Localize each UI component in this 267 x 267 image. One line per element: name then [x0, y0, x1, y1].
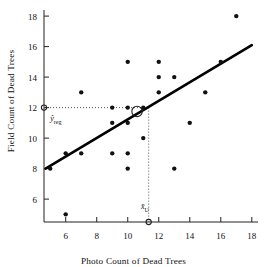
y-tick-label: 16 — [28, 42, 38, 52]
data-point — [126, 105, 130, 109]
data-point — [188, 121, 192, 125]
data-point — [126, 166, 130, 170]
y-tick-label: 8 — [33, 164, 38, 174]
data-points-group — [48, 14, 238, 217]
data-point — [110, 121, 114, 125]
x-tick-label: 12 — [154, 231, 163, 241]
x-axis-title: Photo Count of Dead Trees — [0, 256, 267, 266]
data-point — [126, 60, 130, 64]
data-point — [141, 136, 145, 140]
data-point — [126, 121, 130, 125]
y-axis-title: Field Count of Dead Trees — [6, 36, 16, 166]
data-point — [157, 60, 161, 64]
data-point — [48, 166, 52, 170]
x-bar-u-label-subscript: U — [144, 207, 149, 213]
plot-canvas: 681012141618681012141618ŷregx̄U — [0, 0, 267, 267]
x-bar-u-label: x̄U — [140, 202, 150, 213]
y-tick-label: 14 — [28, 73, 38, 83]
y-ticks-group: 681012141618 — [28, 12, 49, 205]
data-point — [203, 90, 207, 94]
x-tick-label: 18 — [247, 231, 257, 241]
data-point — [110, 105, 114, 109]
data-point — [219, 60, 223, 64]
data-point — [79, 90, 83, 94]
data-point — [234, 14, 238, 18]
y-tick-label: 6 — [33, 195, 38, 205]
data-point — [79, 151, 83, 155]
data-point — [172, 166, 176, 170]
data-point — [126, 151, 130, 155]
y-reg-label: ŷreg — [49, 114, 61, 125]
data-point — [64, 212, 68, 216]
x-tick-label: 16 — [216, 231, 226, 241]
data-point — [110, 151, 114, 155]
x-tick-label: 10 — [123, 231, 133, 241]
data-point — [157, 90, 161, 94]
x-tick-label: 6 — [63, 231, 68, 241]
data-point — [157, 75, 161, 79]
x-tick-label: 14 — [185, 231, 195, 241]
data-point — [64, 151, 68, 155]
y-tick-label: 12 — [28, 103, 37, 113]
y-tick-label: 18 — [28, 12, 38, 22]
scatter-plot-figure: 681012141618681012141618ŷregx̄U Photo Co… — [0, 0, 267, 267]
x-ticks-group: 681012141618 — [63, 217, 256, 241]
axes-group — [44, 10, 258, 222]
y-reg-label-subscript: reg — [54, 119, 62, 125]
data-point — [172, 75, 176, 79]
y-tick-label: 10 — [28, 134, 38, 144]
x-tick-label: 8 — [94, 231, 99, 241]
annotations-group: ŷregx̄U — [49, 114, 149, 213]
